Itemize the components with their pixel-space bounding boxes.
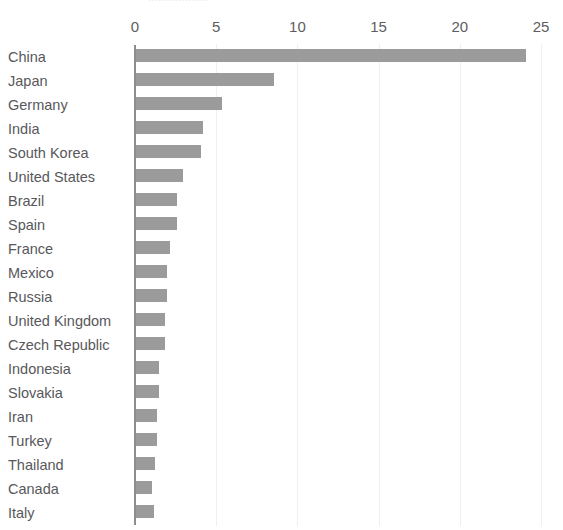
x-tick-label-5: 5 xyxy=(212,18,220,35)
bar-row: Indonesia xyxy=(0,358,563,382)
bar xyxy=(136,265,167,278)
bar xyxy=(136,289,167,302)
bar xyxy=(136,313,165,326)
bar xyxy=(136,193,177,206)
bar-row: Mexico xyxy=(0,262,563,286)
x-tick-label-10: 10 xyxy=(289,18,306,35)
category-label: China xyxy=(8,47,134,67)
bar xyxy=(136,97,222,110)
category-label: United Kingdom xyxy=(8,311,134,331)
bar-row: United States xyxy=(0,166,563,190)
plot-area: 0510152025 ChinaJapanGermanyIndiaSouth K… xyxy=(0,0,563,530)
category-label: Spain xyxy=(8,215,134,235)
bar xyxy=(136,217,177,230)
bar xyxy=(136,481,152,494)
category-label: Turkey xyxy=(8,431,134,451)
category-label: Mexico xyxy=(8,263,134,283)
bar-row: Japan xyxy=(0,70,563,94)
bar xyxy=(136,169,183,182)
bar-row: Spain xyxy=(0,214,563,238)
bar xyxy=(136,361,159,374)
category-label: Italy xyxy=(8,503,134,523)
category-label: South Korea xyxy=(8,143,134,163)
bar-row: Italy xyxy=(0,502,563,526)
category-label: Canada xyxy=(8,479,134,499)
category-label: Czech Republic xyxy=(8,335,134,355)
category-label: Indonesia xyxy=(8,359,134,379)
bar xyxy=(136,49,526,62)
bar-row: France xyxy=(0,238,563,262)
x-tick-label-0: 0 xyxy=(131,18,139,35)
bar xyxy=(136,73,274,86)
category-label: Brazil xyxy=(8,191,134,211)
bar xyxy=(136,457,155,470)
bar-row: Czech Republic xyxy=(0,334,563,358)
category-label: France xyxy=(8,239,134,259)
bar-rows: ChinaJapanGermanyIndiaSouth KoreaUnited … xyxy=(0,46,563,526)
x-tick-label-20: 20 xyxy=(451,18,468,35)
bar-row: Slovakia xyxy=(0,382,563,406)
bar xyxy=(136,241,170,254)
bar xyxy=(136,337,165,350)
bar-row: Brazil xyxy=(0,190,563,214)
bar xyxy=(136,121,203,134)
bar-row: Turkey xyxy=(0,430,563,454)
bar-row: China xyxy=(0,46,563,70)
bar-row: Thailand xyxy=(0,454,563,478)
x-axis-ticks: 0510152025 xyxy=(0,0,563,44)
bar-row: India xyxy=(0,118,563,142)
bar xyxy=(136,145,201,158)
bar-row: Canada xyxy=(0,478,563,502)
bar xyxy=(136,433,157,446)
bar xyxy=(136,409,157,422)
category-label: Slovakia xyxy=(8,383,134,403)
bar xyxy=(136,505,154,518)
category-label: Iran xyxy=(8,407,134,427)
bar-row: United Kingdom xyxy=(0,310,563,334)
category-label: Germany xyxy=(8,95,134,115)
bar-row: South Korea xyxy=(0,142,563,166)
x-tick-label-15: 15 xyxy=(370,18,387,35)
category-label: United States xyxy=(8,167,134,187)
category-label: Japan xyxy=(8,71,134,91)
bar-row: Russia xyxy=(0,286,563,310)
x-tick-label-25: 25 xyxy=(533,18,550,35)
category-label: India xyxy=(8,119,134,139)
bar-row: Germany xyxy=(0,94,563,118)
category-label: Russia xyxy=(8,287,134,307)
category-label: Thailand xyxy=(8,455,134,475)
bar-chart: .................. 0510152025 ChinaJapan… xyxy=(0,0,563,530)
bar xyxy=(136,385,159,398)
bar-row: Iran xyxy=(0,406,563,430)
